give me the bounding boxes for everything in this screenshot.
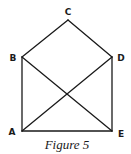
edge-c-d — [68, 20, 112, 57]
vertex-label-c: C — [65, 7, 72, 17]
edge-b-c — [22, 20, 68, 57]
vertex-label-a: A — [9, 127, 16, 137]
figure-caption: Figure 5 — [44, 137, 90, 152]
edges — [22, 20, 112, 131]
vertex-label-b: B — [10, 53, 17, 63]
vertex-label-e: E — [118, 129, 124, 139]
vertex-label-d: D — [117, 53, 124, 63]
figure-diagram: C B D A E Figure 5 — [0, 0, 131, 154]
